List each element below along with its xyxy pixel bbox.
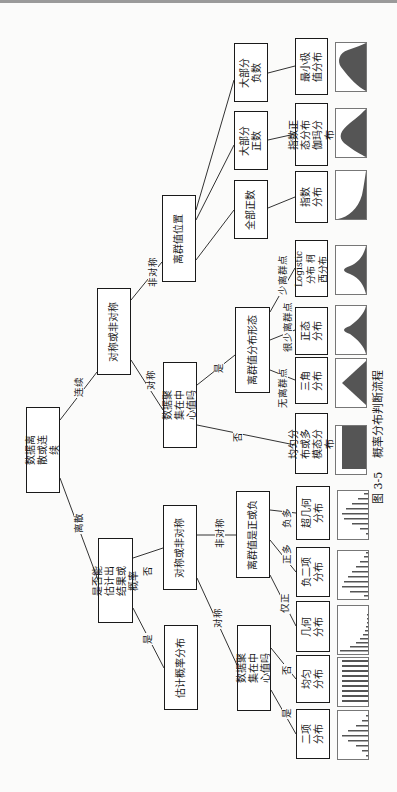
edge-label-less-outliers: 少离群点 <box>278 254 288 296</box>
node-label: 离群值是正或负 <box>247 500 259 570</box>
figure-caption: 图 3-5 概率分布判断流程 <box>369 394 385 504</box>
chart-binomial <box>337 710 369 760</box>
chart-logistic <box>335 245 367 295</box>
edge-label-more-positive: 正多 <box>282 543 292 565</box>
chart-min-extreme <box>335 42 367 92</box>
edge-label-more-negative: 负多 <box>282 507 292 529</box>
leaf-lognormal-gamma: 指数正态分布 伽玛分布 <box>295 103 328 166</box>
node-all-positive: 全部正数 <box>234 180 268 239</box>
edge-label-d-symmetric: 对称 <box>213 607 223 629</box>
node-label: 数据离散或连续 <box>25 434 61 466</box>
node-label: 大部分负数 <box>239 57 263 89</box>
node-label: 数据聚集在中心值吗 <box>162 389 198 421</box>
node-can-estimate: 是否能估计出结果或概率 <box>98 538 133 623</box>
edge-label-symmetric: 对称 <box>146 369 156 391</box>
edge-label-no-outliers: 无离群点 <box>278 367 288 409</box>
leaf-logistic-cauchy: Logistic分布 柯西分布 <box>295 240 328 297</box>
node-outlier-position: 离群值位置 <box>162 195 196 282</box>
leaf-min-extreme: 最小极值分布 <box>295 38 328 95</box>
leaf-label: 均匀分布 <box>301 667 325 691</box>
edge-label-few-outliers: 很少离群点 <box>283 301 293 353</box>
node-label: 数据聚集在中心值吗 <box>236 652 272 684</box>
leaf-hypergeometric: 超几何分布 <box>296 486 330 540</box>
chart-geometric <box>337 605 369 655</box>
leaf-label: 几何分布 <box>301 615 325 639</box>
node-label: 离群值位置 <box>173 214 185 264</box>
node-label: 全部正数 <box>245 190 257 230</box>
caption-number: 图 3-5 <box>372 472 385 504</box>
node-mostly-positive: 大部分正数 <box>234 111 268 170</box>
edge-label-continuous: 连续 <box>74 376 84 398</box>
chart-triangle <box>335 358 367 408</box>
leaf-binomial: 二项分布 <box>296 709 330 759</box>
node-label: 是否能估计出结果或概率 <box>92 564 140 597</box>
node-discrete-symmetry: 对称或非对称 <box>163 505 197 590</box>
node-root: 数据离散或连续 <box>26 407 60 493</box>
leaf-exponential: 指数分布 <box>295 171 328 223</box>
edge-label-c-no: 否 <box>282 664 292 676</box>
leaf-label: 二项分布 <box>301 722 325 746</box>
leaf-label: 指数正态分布 伽玛分布 <box>288 119 336 150</box>
leaf-negative-binomial: 负二项分布 <box>296 547 330 597</box>
leaf-label: 负二项分布 <box>301 556 325 588</box>
leaf-triangle: 三角分布 <box>295 357 328 404</box>
edge-label-d-yes: 是 <box>143 633 153 645</box>
leaf-label: 最小极值分布 <box>300 51 324 82</box>
leaf-uniform-multimodal: 均匀分布或多模态分布 <box>295 413 328 474</box>
leaf-label: 三角分布 <box>300 369 324 393</box>
node-label: 估计概率分布 <box>175 638 187 698</box>
edge-label-no: 否 <box>233 431 243 443</box>
leaf-geometric: 几何分布 <box>296 601 330 652</box>
chart-exponential <box>335 170 367 220</box>
node-mostly-negative: 大部分负数 <box>234 43 268 102</box>
edge-label-asymmetric: 非对称 <box>148 256 158 288</box>
edge-label-d-no: 否 <box>143 565 153 577</box>
leaf-label: 均匀分布或多模态分布 <box>288 428 336 459</box>
edge-label-c-yes: 是 <box>282 707 292 719</box>
leaf-discrete-uniform: 均匀分布 <box>296 655 330 703</box>
leaf-label: 正态分布 <box>300 319 324 343</box>
caption-title: 概率分布判断流程 <box>372 370 385 458</box>
leaf-label: Logistic分布 柯西分布 <box>294 250 330 286</box>
node-outlier-shape: 离群值分布形态 <box>235 307 270 393</box>
node-label: 对称或非对称 <box>108 302 120 362</box>
chart-lognormal <box>335 108 367 158</box>
edge-label-discrete: 离散 <box>74 512 84 534</box>
chart-discrete-uniform <box>337 657 369 707</box>
node-estimate-prob: 估计概率分布 <box>164 625 198 710</box>
node-discrete-center: 数据聚集在中心值吗 <box>237 625 271 711</box>
leaf-label: 超几何分布 <box>301 497 325 529</box>
chart-normal <box>335 305 367 355</box>
edge-label-d-asymmetric: 非对称 <box>215 517 225 549</box>
chart-uniform <box>335 425 367 475</box>
node-label: 大部分正数 <box>239 125 263 157</box>
leaf-label: 指数分布 <box>300 185 324 209</box>
node-outlier-sign: 离群值是正或负 <box>236 491 270 578</box>
node-label: 离群值分布形态 <box>247 315 259 385</box>
edge-label-yes: 是 <box>214 362 224 374</box>
edge-label-only-positive: 仅正 <box>280 592 290 614</box>
node-label: 对称或非对称 <box>174 518 186 578</box>
chart-negative-binomial <box>337 550 369 600</box>
node-continuous-symmetry: 对称或非对称 <box>97 288 131 375</box>
node-continuous-center: 数据聚集在中心值吗 <box>163 362 197 448</box>
chart-hypergeometric <box>337 490 369 540</box>
leaf-normal: 正态分布 <box>295 307 328 355</box>
